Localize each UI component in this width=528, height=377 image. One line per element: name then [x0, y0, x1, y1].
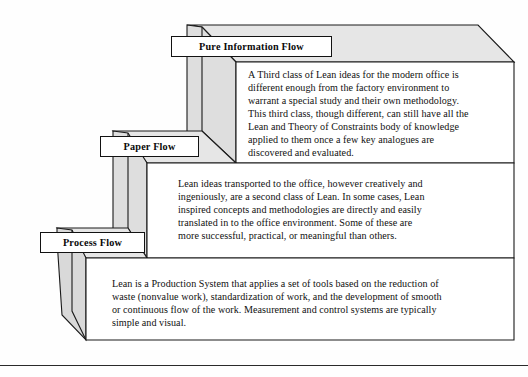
top-step-body-text: A Third class of Lean ideas for the mode… — [248, 68, 506, 159]
label-process-flow-text: Process Flow — [63, 237, 122, 248]
label-paper-flow[interactable]: Paper Flow — [100, 136, 199, 157]
label-paper-flow-text: Paper Flow — [124, 141, 176, 152]
diagram-canvas: A Third class of Lean ideas for the mode… — [0, 0, 528, 377]
label-pure-information-flow[interactable]: Pure Information Flow — [171, 36, 332, 57]
middle-step-body-text: Lean ideas transported to the office, ho… — [178, 177, 508, 242]
page-bottom-rule — [0, 365, 528, 366]
bottom-step-body-text: Lean is a Production System that applies… — [112, 277, 502, 329]
label-process-flow[interactable]: Process Flow — [40, 232, 145, 253]
label-pure-information-flow-text: Pure Information Flow — [199, 41, 304, 52]
